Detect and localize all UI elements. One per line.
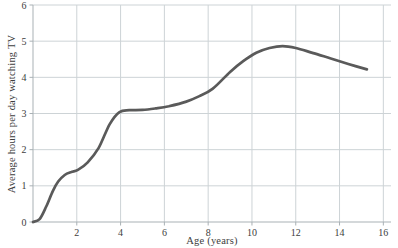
data-curve-average-tv-hours-by-age — [33, 46, 367, 222]
y-axis-title: Average hours per day watching TV — [6, 35, 17, 194]
y-tick-label: 0 — [22, 217, 27, 228]
x-axis-title: Age (years) — [33, 235, 391, 246]
chart-canvas: 2468101214160123456 — [0, 0, 398, 248]
y-tick-label: 2 — [22, 144, 27, 155]
tick-marks — [30, 5, 384, 226]
y-tick-label: 6 — [22, 0, 27, 11]
y-tick-label: 5 — [22, 36, 27, 47]
grid-lines — [33, 5, 391, 222]
y-tick-label: 1 — [22, 180, 27, 191]
tv-watching-vs-age-chart: 2468101214160123456 Age (years) Average … — [0, 0, 398, 248]
y-tick-labels: 0123456 — [22, 0, 27, 228]
y-tick-label: 4 — [22, 72, 27, 83]
y-tick-label: 3 — [22, 108, 27, 119]
